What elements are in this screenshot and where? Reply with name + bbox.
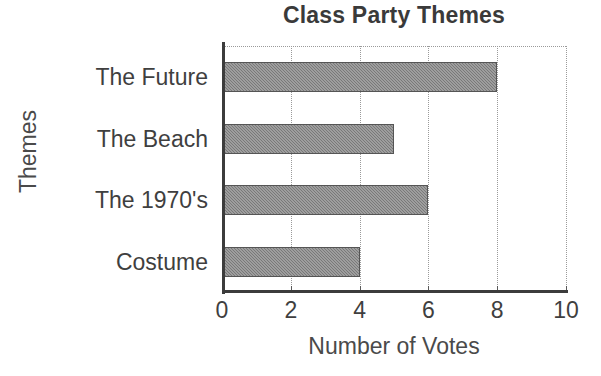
x-tick-label-8: 8 bbox=[467, 297, 527, 324]
x-tick-label-4: 4 bbox=[330, 297, 390, 324]
x-tick-label-10: 10 bbox=[536, 297, 596, 324]
chart-title: Class Party Themes bbox=[222, 2, 566, 29]
x-tick-label-6: 6 bbox=[398, 297, 458, 324]
plot-area bbox=[222, 46, 566, 293]
y-category-label: The Beach bbox=[97, 128, 208, 151]
gridline-top bbox=[222, 46, 566, 47]
y-axis-category-labels: The FutureThe BeachThe 1970'sCostume bbox=[0, 46, 222, 293]
x-tick-label-0: 0 bbox=[192, 297, 252, 324]
x-axis-title: Number of Votes bbox=[222, 333, 566, 360]
bar-chart-figure: Class Party Themes Themes Number of Vote… bbox=[0, 0, 601, 376]
x-axis-line bbox=[222, 290, 568, 293]
y-category-label: The 1970's bbox=[95, 189, 208, 212]
gridline-x-8 bbox=[497, 46, 498, 293]
bar bbox=[222, 185, 428, 215]
gridline-x-10 bbox=[566, 46, 567, 293]
y-category-label: The Future bbox=[96, 66, 209, 89]
bar bbox=[222, 247, 360, 277]
y-axis-line bbox=[222, 42, 225, 294]
x-tick-label-2: 2 bbox=[261, 297, 321, 324]
y-category-label: Costume bbox=[116, 251, 208, 274]
bar bbox=[222, 124, 394, 154]
bar bbox=[222, 62, 497, 92]
